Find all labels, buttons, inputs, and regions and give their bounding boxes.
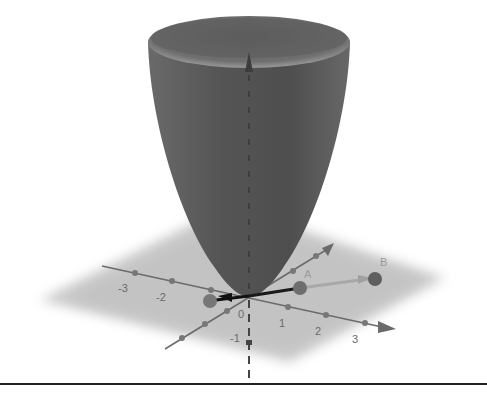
point-a-label: A xyxy=(304,268,312,280)
y-tick-label: -1 xyxy=(230,332,240,344)
point-a[interactable] xyxy=(293,281,307,295)
graphics-view-3d[interactable]: -3 -2 0 1 2 3 -1 A B xyxy=(0,0,487,394)
x-tick-label: -3 xyxy=(118,282,128,294)
bottom-divider xyxy=(0,383,487,385)
x-tick-label: 3 xyxy=(352,333,358,345)
point-b-label: B xyxy=(380,256,387,268)
x-tick-label: 1 xyxy=(279,317,285,329)
x-tick-label: -2 xyxy=(156,291,166,303)
point-left[interactable] xyxy=(203,294,217,308)
x-axis-arrow-icon xyxy=(378,321,396,333)
origin-label: 0 xyxy=(238,308,244,320)
x-tick-label: 2 xyxy=(315,325,321,337)
point-b[interactable] xyxy=(368,272,382,286)
